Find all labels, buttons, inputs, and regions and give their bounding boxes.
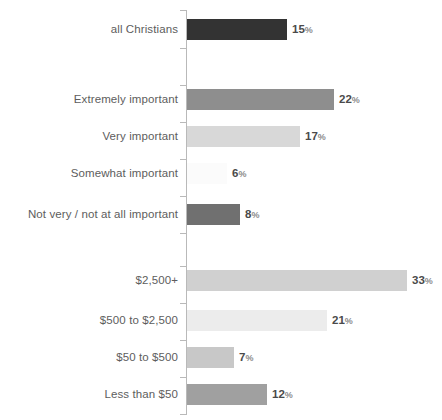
axis-tick (180, 48, 186, 49)
bar-value-number: 17 (305, 130, 318, 142)
bar (187, 204, 240, 225)
bar-value-label: 17% (305, 126, 326, 147)
bar-row: Somewhat important6% (0, 163, 442, 184)
axis-tick (180, 340, 186, 341)
axis-tick (180, 196, 186, 197)
bar-category-label: Not very / not at all important (0, 204, 178, 225)
bar-value-label: 21% (332, 310, 353, 331)
bar-row: Less than $5012% (0, 384, 442, 405)
percent-sign: % (345, 316, 353, 326)
bar-value-number: 15 (292, 23, 305, 35)
horizontal-bar-chart: all Christians15%Extremely important22%V… (0, 0, 442, 420)
bar-value-label: 6% (232, 163, 246, 184)
bar-value-number: 12 (272, 388, 285, 400)
percent-sign: % (305, 25, 313, 35)
bar-value-label: 15% (292, 19, 313, 40)
bar-category-label: $500 to $2,500 (0, 310, 178, 331)
bar (187, 126, 300, 147)
percent-sign: % (245, 353, 253, 363)
bar-row: $2,500+33% (0, 270, 442, 291)
bar-row: Extremely important22% (0, 89, 442, 110)
bar-value-label: 8% (245, 204, 259, 225)
bar-category-label: Extremely important (0, 89, 178, 110)
bar (187, 19, 287, 40)
bar (187, 347, 234, 368)
bar-value-label: 12% (272, 384, 293, 405)
bar (187, 163, 227, 184)
bar-value-label: 33% (412, 270, 433, 291)
bar-category-label: $2,500+ (0, 270, 178, 291)
bar-value-number: 22 (339, 93, 352, 105)
bar-category-label: $50 to $500 (0, 347, 178, 368)
percent-sign: % (238, 169, 246, 179)
percent-sign: % (251, 210, 259, 220)
bar-row: Very important17% (0, 126, 442, 147)
bar (187, 310, 327, 331)
axis-tick (180, 377, 186, 378)
bar (187, 89, 334, 110)
axis-tick (180, 233, 186, 234)
bar (187, 384, 267, 405)
axis-tick (180, 122, 186, 123)
axis-tick (180, 414, 186, 415)
bar-value-label: 22% (339, 89, 360, 110)
bar-row: all Christians15% (0, 19, 442, 40)
bar-category-label: all Christians (0, 19, 178, 40)
axis-tick (180, 303, 186, 304)
percent-sign: % (285, 390, 293, 400)
bar-row: Not very / not at all important8% (0, 204, 442, 225)
axis-tick (180, 266, 186, 267)
percent-sign: % (352, 95, 360, 105)
axis-tick (180, 10, 186, 11)
bar-row: $500 to $2,50021% (0, 310, 442, 331)
bar-category-label: Somewhat important (0, 163, 178, 184)
axis-tick (180, 159, 186, 160)
bar (187, 270, 407, 291)
bar-category-label: Less than $50 (0, 384, 178, 405)
bar-value-label: 7% (239, 347, 253, 368)
bar-value-number: 33 (412, 274, 425, 286)
bar-row: $50 to $5007% (0, 347, 442, 368)
percent-sign: % (318, 132, 326, 142)
percent-sign: % (425, 276, 433, 286)
bar-category-label: Very important (0, 126, 178, 147)
axis-tick (180, 85, 186, 86)
bar-value-number: 21 (332, 314, 345, 326)
